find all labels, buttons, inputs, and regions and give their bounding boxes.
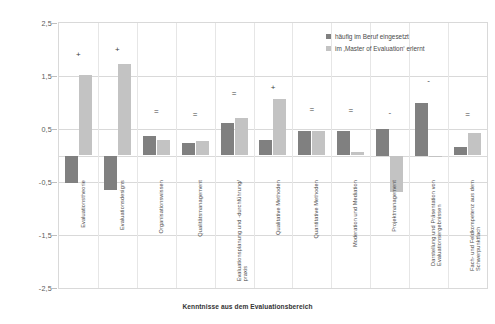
significance-marker: =: [448, 110, 488, 119]
bar: [196, 141, 209, 156]
x-axis-category-label: Fach- und Feldkompetenz aus demSchwerpun…: [469, 180, 482, 271]
x-axis-category-label: Evaluationsdesigns: [119, 180, 125, 230]
bar: [312, 131, 325, 156]
y-axis-tick-mark: [52, 76, 57, 77]
x-axis-category-label: Darstellung und Präsentation vonEvaluati…: [430, 180, 443, 266]
y-axis-tick-mark: [52, 235, 57, 236]
bar: [415, 103, 428, 156]
y-axis-tick-label: -2,5: [6, 284, 52, 293]
bar: [337, 131, 350, 155]
bar: [235, 118, 248, 155]
x-axis-category-label: Projektmanagement: [391, 180, 397, 232]
y-axis-tick-label: -1,5: [6, 231, 52, 240]
legend-label-0: häufig im Beruf eingesetzt: [335, 33, 409, 40]
x-axis-category-label: Quantitative Methoden: [313, 180, 319, 238]
significance-marker: -: [409, 76, 449, 85]
significance-marker: -: [370, 108, 410, 117]
x-axis-category-label: Organisationswissen: [158, 180, 164, 234]
x-axis-category-label: Moderation und Mediation: [352, 180, 358, 247]
significance-marker: +: [58, 50, 98, 59]
bar: [468, 133, 481, 155]
y-axis-tick-label: -0,5: [6, 178, 52, 187]
bar: [221, 123, 234, 156]
x-axis-category-label: Evaluationsplanung und -durchführung/pra…: [236, 180, 249, 281]
y-axis-tick-mark: [52, 288, 57, 289]
bar: [118, 64, 131, 155]
bar: [182, 143, 195, 156]
y-axis-tick-label: 2,5: [6, 19, 52, 28]
significance-marker: =: [214, 89, 254, 98]
significance-marker: =: [175, 110, 215, 119]
y-axis-tick-mark: [52, 129, 57, 130]
bar: [376, 129, 389, 156]
significance-marker: =: [136, 107, 176, 116]
bar: [143, 136, 156, 155]
legend-label-1: im ‚Master of Evaluation‘ erlernt: [335, 45, 425, 52]
y-axis-tick-mark: [52, 23, 57, 24]
legend-swatch-haeufig-im-beruf: [326, 34, 331, 39]
bar: [65, 156, 78, 184]
x-axis-category-labels: EvaluationstheorieEvaluationsdesignsOrga…: [58, 180, 488, 300]
bar: [157, 140, 170, 156]
bar: [79, 75, 92, 156]
legend-item-1: im ‚Master of Evaluation‘ erlernt: [326, 45, 425, 52]
bar-chart: 2,51,50,5-0,5-1,5-2,5 ++===+==--= Evalua…: [0, 0, 495, 324]
significance-marker: +: [253, 83, 293, 92]
bar: [351, 152, 364, 155]
bar: [298, 131, 311, 156]
bar: [273, 99, 286, 155]
x-axis-category-label: Qualitative Methoden: [275, 180, 281, 235]
x-axis-title: Kenntnisse aus dem Evaluationsbereich: [0, 303, 495, 310]
x-axis-category-label: Evaluationstheorie: [80, 180, 86, 228]
significance-marker: +: [97, 45, 137, 54]
y-axis: 2,51,50,5-0,5-1,5-2,5: [0, 22, 58, 289]
legend-item-0: häufig im Beruf eingesetzt: [326, 33, 425, 40]
chart-legend: häufig im Beruf eingesetzt im ‚Master of…: [326, 33, 425, 57]
significance-marker: =: [292, 105, 332, 114]
legend-swatch-master-of-evaluation: [326, 46, 331, 51]
bar: [259, 140, 272, 155]
y-axis-tick-mark: [52, 182, 57, 183]
x-axis-category-label: Qualitätsmanagement: [197, 180, 203, 237]
significance-marker: =: [331, 106, 371, 115]
bar: [454, 147, 467, 155]
y-axis-tick-label: 1,5: [6, 72, 52, 81]
y-axis-tick-label: 0,5: [6, 125, 52, 134]
bar: [429, 156, 442, 157]
